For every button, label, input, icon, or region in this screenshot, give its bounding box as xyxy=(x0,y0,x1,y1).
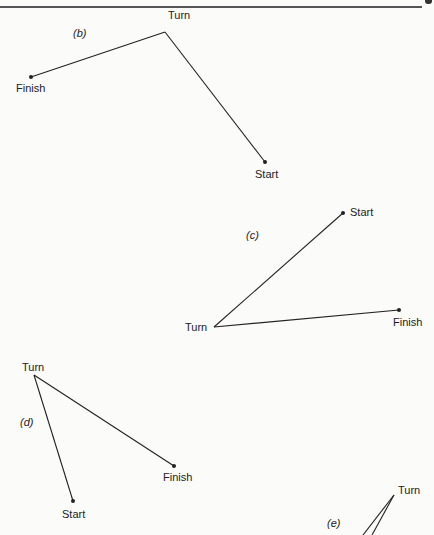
label-d-start: Start xyxy=(62,508,85,520)
leg-e-1 xyxy=(363,495,394,535)
panel-label-e: (e) xyxy=(327,517,340,529)
leg-c-start-turn xyxy=(214,213,343,327)
label-c-finish: Finish xyxy=(393,316,422,328)
figure-canvas: (b) Start Turn Finish (c) Start Turn Fin… xyxy=(0,0,434,535)
panel-label-b: (b) xyxy=(73,27,86,39)
label-d-finish: Finish xyxy=(163,471,192,483)
leg-b-start-turn xyxy=(165,32,265,162)
label-e-turn: Turn xyxy=(398,484,420,496)
leg-d-start-turn xyxy=(34,375,73,501)
label-b-start: Start xyxy=(255,168,278,180)
start-dot-c xyxy=(341,211,345,215)
finish-dot-c xyxy=(397,308,401,312)
leg-b-turn-finish xyxy=(31,32,165,77)
finish-dot-d xyxy=(172,464,176,468)
path-diagrams xyxy=(0,0,434,535)
finish-dot-b xyxy=(29,75,33,79)
start-dot-d xyxy=(71,499,75,503)
leg-c-turn-finish xyxy=(214,310,399,327)
start-dot-b xyxy=(263,160,267,164)
label-c-turn: Turn xyxy=(185,321,207,333)
leg-e-2 xyxy=(372,495,394,535)
label-d-turn: Turn xyxy=(22,361,44,373)
label-c-start: Start xyxy=(350,206,373,218)
label-b-turn: Turn xyxy=(168,9,190,21)
label-b-finish: Finish xyxy=(16,82,45,94)
panel-label-c: (c) xyxy=(246,229,259,241)
leg-d-turn-finish xyxy=(34,375,174,466)
panel-label-d: (d) xyxy=(20,416,33,428)
